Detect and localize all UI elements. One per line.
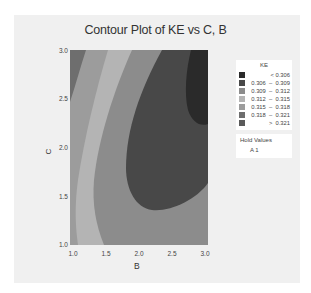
legend-swatch <box>239 72 245 78</box>
legend-swatch <box>239 104 245 110</box>
y-tick: 1.5 <box>52 193 68 200</box>
y-tick: 1.0 <box>52 241 68 248</box>
legend-item: 0.318 – 0.321 <box>239 111 291 119</box>
legend-item: > 0.321 <box>239 119 291 127</box>
x-tick: 2.0 <box>129 250 149 257</box>
y-axis-label: C <box>44 149 53 155</box>
x-tick: 2.5 <box>162 250 182 257</box>
legend-swatch <box>239 112 245 118</box>
x-tick: 1.0 <box>63 250 83 257</box>
legend-item: < 0.306 <box>239 71 291 79</box>
legend-title: KE <box>236 62 292 68</box>
legend-swatch <box>239 120 245 126</box>
y-tick: 2.0 <box>52 144 68 151</box>
x-axis-label: B <box>134 261 140 271</box>
chart-title: Contour Plot of KE vs C, B <box>0 23 311 37</box>
x-tick: 3.0 <box>195 250 215 257</box>
legend: KE < 0.306 0.306 – 0.309 0.309 – 0.312 0… <box>236 60 292 130</box>
legend-swatch <box>239 80 245 86</box>
legend-item: 0.309 – 0.312 <box>239 87 291 95</box>
y-tick: 2.5 <box>52 95 68 102</box>
hold-values-title: Hold Values <box>240 137 272 143</box>
y-tick: 3.0 <box>52 47 68 54</box>
hold-values-box: Hold Values A 1 <box>236 134 292 158</box>
legend-swatch <box>239 96 245 102</box>
legend-item: 0.315 – 0.318 <box>239 103 291 111</box>
contour-plot-area <box>70 50 208 245</box>
x-tick: 1.5 <box>96 250 116 257</box>
legend-item: 0.312 – 0.315 <box>239 95 291 103</box>
legend-swatch <box>239 88 245 94</box>
legend-item: 0.306 – 0.309 <box>239 79 291 87</box>
hold-value: A 1 <box>250 147 259 153</box>
